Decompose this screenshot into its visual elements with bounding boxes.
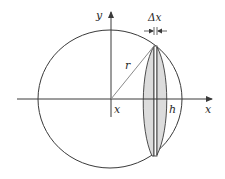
slice-right-lens: [157, 47, 167, 155]
sphere-slice-diagram: y x r x h Δx: [0, 0, 225, 179]
y-axis-label: y: [95, 9, 103, 22]
x-axis-label: x: [205, 103, 212, 116]
slice-position-label: x: [114, 103, 121, 116]
cap-height-label: h: [169, 103, 176, 116]
slice-left-lens: [143, 46, 154, 156]
radius-label: r: [125, 59, 131, 72]
delta-x-label: Δx: [147, 11, 162, 23]
